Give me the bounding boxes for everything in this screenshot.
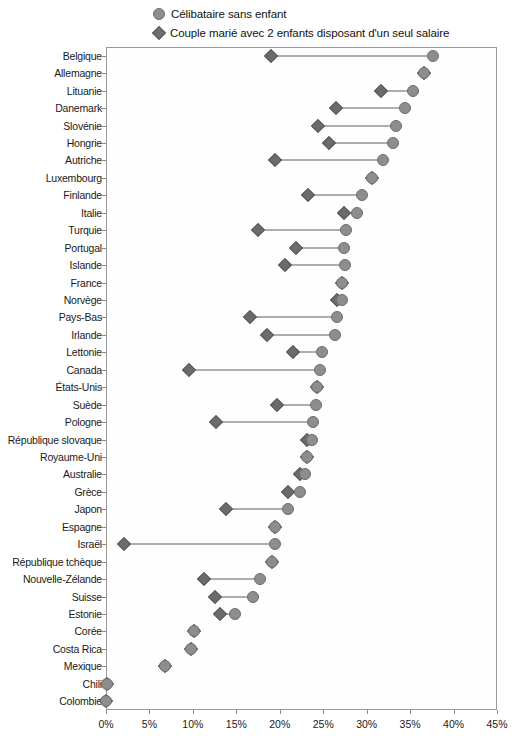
legend-label-couple: Couple marié avec 2 enfants disposant d'…: [170, 27, 449, 39]
x-axis-tick-label: 5%: [142, 718, 157, 730]
data-point-couple: [208, 590, 222, 604]
x-axis-tick-label: 40%: [443, 718, 464, 730]
connector-line: [275, 160, 384, 161]
data-point-couple: [270, 398, 284, 412]
y-axis-label: Costa Rica: [0, 643, 102, 654]
y-axis-label: Turquie: [0, 225, 102, 236]
x-axis-tick-label: 20%: [269, 718, 290, 730]
y-axis-label: Lituanie: [0, 85, 102, 96]
y-axis-label: Mexique: [0, 661, 102, 672]
y-axis-label: Italie: [0, 207, 102, 218]
data-point-couple: [209, 415, 223, 429]
y-axis-label: Norvège: [0, 294, 102, 305]
data-point-single: [366, 172, 378, 184]
connector-line: [189, 369, 320, 370]
data-point-single: [299, 468, 311, 480]
data-point-couple: [181, 363, 195, 377]
chart-legend: Célibataire sans enfant Couple marié ave…: [152, 4, 502, 42]
data-point-single: [266, 556, 278, 568]
data-point-couple: [213, 607, 227, 621]
data-point-couple: [337, 206, 351, 220]
y-axis-label: Portugal: [0, 242, 102, 253]
data-point-single: [247, 591, 259, 603]
data-point-single: [390, 120, 402, 132]
data-point-single: [269, 538, 281, 550]
data-point-couple: [264, 49, 278, 63]
y-axis-label: Israël: [0, 539, 102, 550]
data-series-layer: [106, 47, 497, 710]
y-axis-label: Suisse: [0, 591, 102, 602]
x-axis-tick: [497, 710, 498, 714]
y-axis-label: Estonie: [0, 609, 102, 620]
data-point-single: [229, 608, 241, 620]
y-axis-label: Grèce: [0, 486, 102, 497]
dumbbell-chart: Célibataire sans enfant Couple marié ave…: [0, 0, 516, 740]
data-point-single: [399, 102, 411, 114]
x-axis-tick: [193, 710, 194, 714]
y-axis-label: Corée: [0, 626, 102, 637]
y-axis-label: Suède: [0, 399, 102, 410]
data-point-single: [282, 503, 294, 515]
data-point-single: [377, 154, 389, 166]
data-point-single: [387, 137, 399, 149]
y-axis-label: Islande: [0, 260, 102, 271]
data-point-single: [418, 67, 430, 79]
y-axis-label: Belgique: [0, 50, 102, 61]
data-point-single: [331, 311, 343, 323]
x-axis-tick-label: 35%: [400, 718, 421, 730]
x-axis-tick: [149, 710, 150, 714]
data-point-couple: [197, 572, 211, 586]
y-axis-label: Autriche: [0, 155, 102, 166]
legend-item-couple: Couple marié avec 2 enfants disposant d'…: [152, 23, 502, 42]
data-point-couple: [329, 101, 343, 115]
x-axis-tick: [236, 710, 237, 714]
data-point-couple: [251, 223, 265, 237]
data-point-single: [269, 521, 281, 533]
y-axis-label: Royaume-Uni: [0, 452, 102, 463]
data-point-single: [314, 364, 326, 376]
data-point-single: [336, 277, 348, 289]
x-axis: 0%5%10%15%20%25%30%35%40%45%: [106, 710, 497, 740]
data-point-couple: [322, 136, 336, 150]
data-point-single: [306, 434, 318, 446]
data-point-single: [185, 643, 197, 655]
data-point-single: [329, 329, 341, 341]
connector-line: [267, 334, 336, 335]
data-point-couple: [117, 537, 131, 551]
y-axis-label: Irlande: [0, 329, 102, 340]
data-point-single: [356, 189, 368, 201]
y-axis-label: Luxembourg: [0, 172, 102, 183]
y-axis-label: États-Unis: [0, 382, 102, 393]
y-axis-label: Finlande: [0, 190, 102, 201]
connector-line: [216, 422, 312, 423]
x-axis-tick-label: 10%: [182, 718, 203, 730]
connector-line: [124, 544, 274, 545]
circle-marker-icon: [153, 8, 165, 20]
connector-line: [329, 142, 392, 143]
data-point-couple: [243, 310, 257, 324]
data-point-couple: [219, 502, 233, 516]
x-axis-tick-label: 15%: [226, 718, 247, 730]
x-axis-tick-label: 30%: [356, 718, 377, 730]
y-axis-label: Australie: [0, 469, 102, 480]
legend-item-single: Célibataire sans enfant: [152, 4, 502, 23]
x-axis-tick-label: 25%: [313, 718, 334, 730]
data-point-couple: [267, 153, 281, 167]
x-axis-tick: [410, 710, 411, 714]
y-axis-label: Danemark: [0, 103, 102, 114]
data-point-couple: [260, 328, 274, 342]
connector-line: [318, 125, 396, 126]
data-point-single: [301, 451, 313, 463]
data-point-couple: [286, 345, 300, 359]
y-axis-label: République slovaque: [0, 434, 102, 445]
y-axis-label: Espagne: [0, 521, 102, 532]
data-point-couple: [281, 485, 295, 499]
connector-line: [250, 317, 337, 318]
y-axis-label: Pologne: [0, 417, 102, 428]
y-axis-label: Japon: [0, 504, 102, 515]
y-axis-label: Slovénie: [0, 120, 102, 131]
y-axis-label: République tchèque: [0, 556, 102, 567]
connector-line: [336, 108, 405, 109]
x-axis-tick: [323, 710, 324, 714]
x-axis-tick-label: 0%: [98, 718, 113, 730]
